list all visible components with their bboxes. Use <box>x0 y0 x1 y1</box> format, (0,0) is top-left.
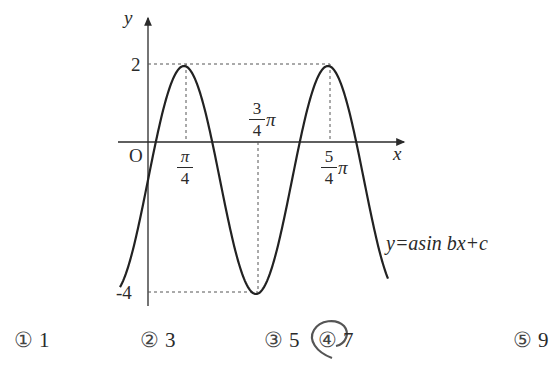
choice-5[interactable]: ⑤ 9 <box>513 328 549 353</box>
x-axis-label: x <box>393 144 401 163</box>
choice-value-5: 9 <box>538 328 549 353</box>
y-axis-label: y <box>124 8 132 27</box>
choice-2[interactable]: ② 3 <box>140 328 176 353</box>
x-tick-5pi-over-4: 5 4 π <box>321 148 348 187</box>
choice-number-5: ⑤ <box>513 331 532 351</box>
choice-4[interactable]: ④ 7 <box>318 328 354 353</box>
choice-value-3: 5 <box>289 328 300 353</box>
y-tick-neg4: -4 <box>116 283 132 302</box>
choice-value-1: 1 <box>39 328 50 353</box>
answer-choices: ① 1 ② 3 ③ 5 ④ 7 ⑤ 9 <box>0 328 558 358</box>
choice-number-3: ③ <box>264 331 283 351</box>
equation-label: y=asin bx+c <box>386 233 488 253</box>
choice-value-4: 7 <box>343 328 354 353</box>
origin-label: O <box>129 146 143 165</box>
x-tick-pi-over-4: π 4 <box>177 148 193 187</box>
y-tick-2: 2 <box>131 55 141 74</box>
choice-value-2: 3 <box>165 328 176 353</box>
guide-lines <box>148 64 330 292</box>
choice-3[interactable]: ③ 5 <box>264 328 300 353</box>
sine-graph <box>0 0 558 369</box>
choice-number-4: ④ <box>318 331 337 351</box>
choice-number-2: ② <box>140 331 159 351</box>
choice-number-1: ① <box>14 331 33 351</box>
choice-1[interactable]: ① 1 <box>14 328 50 353</box>
x-tick-3pi-over-4: 3 4 π <box>249 100 276 139</box>
